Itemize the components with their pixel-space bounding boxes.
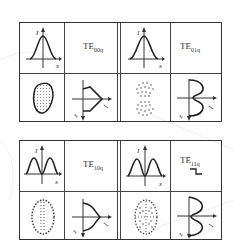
mode-spot-four-lobes-icon — [132, 196, 160, 238]
divider — [170, 141, 171, 239]
mode-label-te01q: TE01q — [180, 41, 200, 53]
divider — [170, 23, 171, 121]
divider — [117, 141, 118, 239]
svg-text:I: I — [34, 147, 38, 155]
axial-field-double-lobe-icon: I z — [175, 76, 219, 122]
svg-text:I: I — [207, 222, 216, 229]
intensity-profile-double-peak-icon: I x — [23, 144, 63, 188]
axial-field-double-lobe-icon: I z — [175, 194, 219, 240]
divider — [120, 23, 121, 121]
mode-panel-top: I x TE00q I x TE01q I z — [19, 22, 222, 122]
mode-label-te11q: TE11q — [180, 155, 200, 167]
intensity-profile-single-peak-icon: I x — [24, 26, 62, 70]
intensity-profile-single-peak-icon: I x — [126, 26, 166, 70]
svg-text:z: z — [70, 228, 79, 235]
mode-spot-dotted-ellipse-icon — [29, 197, 57, 237]
svg-text:x: x — [55, 62, 60, 70]
mode-spot-filled-icon — [30, 81, 56, 115]
svg-text:x: x — [158, 62, 163, 70]
axial-field-single-lobe-icon: I z — [70, 77, 114, 121]
svg-text:I: I — [102, 221, 111, 228]
divider — [64, 141, 65, 239]
svg-text:z: z — [176, 113, 185, 120]
svg-text:z: z — [71, 112, 80, 119]
step-symbol-icon — [189, 168, 203, 176]
svg-text:I: I — [207, 104, 216, 111]
mode-label-te10q: TE10q — [83, 159, 103, 171]
mode-spot-two-lobes-icon — [133, 79, 157, 119]
mode-panel-bottom: I x TE10q I x TE11q I z — [19, 140, 222, 240]
svg-text:I: I — [136, 29, 140, 37]
svg-text:x: x — [158, 180, 163, 188]
divider — [64, 23, 65, 121]
svg-text:I: I — [35, 29, 39, 37]
divider — [120, 141, 121, 239]
divider — [20, 191, 221, 192]
divider — [117, 23, 118, 121]
divider — [20, 73, 221, 74]
axial-field-single-lobe-icon: I z — [70, 195, 114, 239]
intensity-profile-double-peak-icon: I x — [125, 144, 167, 188]
svg-text:I: I — [136, 147, 140, 155]
svg-text:z: z — [176, 231, 185, 238]
mode-label-te00q: TE00q — [83, 41, 103, 53]
svg-text:x: x — [54, 178, 59, 186]
svg-text:I: I — [102, 103, 111, 110]
